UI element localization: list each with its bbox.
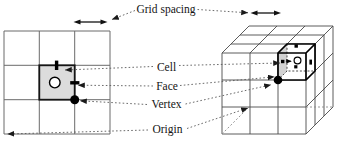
cell-center-circle xyxy=(50,77,61,88)
arrowhead xyxy=(274,11,281,16)
arrowhead xyxy=(251,11,258,16)
cube-3d xyxy=(222,26,333,134)
face-center-tick-right xyxy=(70,81,79,84)
leader-cell-left xyxy=(65,67,153,71)
cube-top-depth-line xyxy=(222,26,249,53)
grid-2d xyxy=(4,31,110,134)
leader-face-left xyxy=(78,85,153,86)
highlighted-cell xyxy=(274,44,315,84)
vertex-dot xyxy=(70,95,79,104)
cube-right-depth-line xyxy=(306,107,333,134)
arrowhead xyxy=(101,20,108,25)
leader-vertex-left xyxy=(80,101,147,105)
grid-terminology-diagram: Grid spacing Cell Face Vertex Origin xyxy=(0,0,338,157)
leader-origin-left xyxy=(8,130,149,134)
cube-right-depth-line xyxy=(306,80,333,107)
face-center-marker-top xyxy=(295,44,298,47)
face-center-tick-top xyxy=(55,61,58,70)
origin-label: Origin xyxy=(152,123,182,136)
cell-center-circle-3d xyxy=(294,57,301,64)
leader-cell-right xyxy=(179,63,280,66)
face-center-marker-left xyxy=(281,60,284,63)
grid-spacing-label: Grid spacing xyxy=(136,3,195,16)
hidden-origin-depth-edge xyxy=(222,107,249,134)
leader-vertex-right xyxy=(186,85,272,104)
cell-label: Cell xyxy=(157,61,176,73)
arrowhead xyxy=(74,20,81,25)
leader-gridspacing-left xyxy=(112,11,135,20)
leader-face-right xyxy=(180,77,275,86)
face-label: Face xyxy=(156,80,178,92)
figure-page: { "figure": { "labels": { "grid_spacing"… xyxy=(0,0,338,157)
leader-origin-right xyxy=(187,108,248,129)
labels: Grid spacing Cell Face Vertex Origin xyxy=(136,3,195,136)
vertex-dot-3d xyxy=(274,76,283,85)
face-center-marker-front xyxy=(294,65,297,68)
face-center-marker-right xyxy=(309,60,312,65)
vertex-label: Vertex xyxy=(151,98,181,110)
cube-top-depth-line xyxy=(250,26,277,53)
leader-gridspacing-right xyxy=(198,10,249,13)
